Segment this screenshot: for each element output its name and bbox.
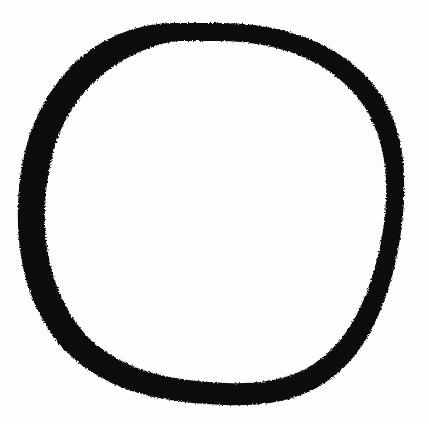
hand-drawn-circle-svg [0, 0, 429, 424]
drawing-canvas: Hand-drawn Circle [0, 0, 429, 424]
paper-background [0, 0, 429, 424]
